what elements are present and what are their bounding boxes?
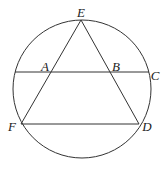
point-label-f: F [8, 120, 16, 133]
point-label-a: A [41, 60, 49, 73]
point-label-c: C [151, 69, 160, 82]
point-label-b: B [112, 60, 120, 73]
circle-diagram [0, 0, 165, 172]
circle [13, 20, 151, 158]
point-label-e: E [77, 6, 85, 19]
geometry-figure: E A B C F D [0, 0, 165, 172]
point-label-d: D [142, 120, 151, 133]
